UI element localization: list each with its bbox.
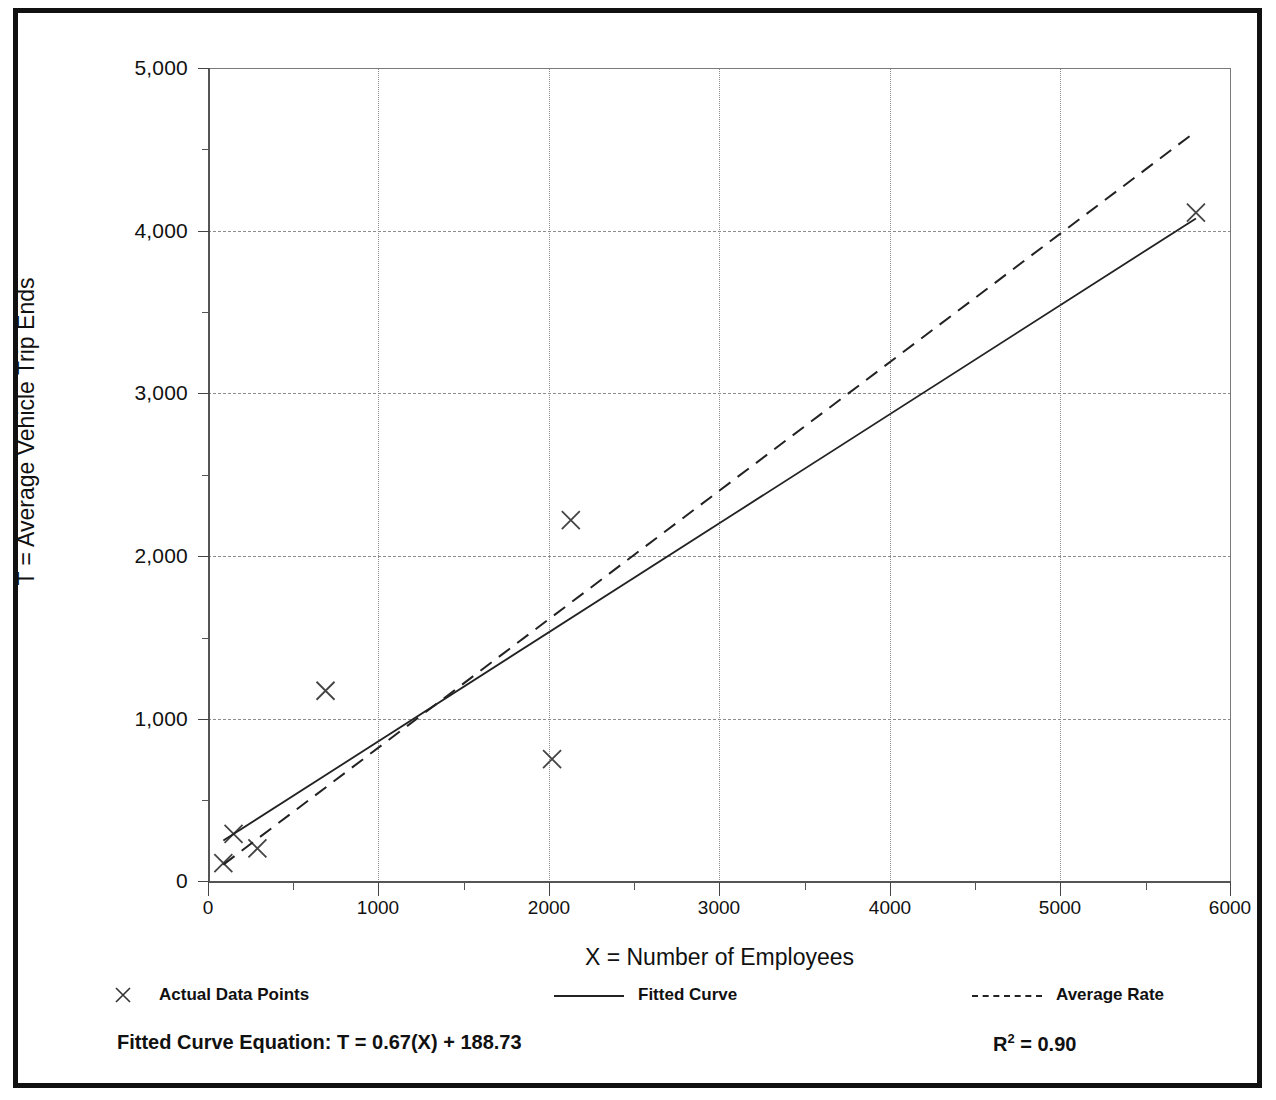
x-tick-label-1000: 1000 (318, 897, 438, 919)
x-tick-label-6000: 6000 (1170, 897, 1276, 919)
plot-top-border (208, 68, 1231, 69)
y-tick-2500 (202, 475, 209, 476)
fitted-curve-equation: Fitted Curve Equation: T = 0.67(X) + 188… (117, 1031, 522, 1054)
data-point-marker-3 (317, 682, 335, 700)
x-tick-4000 (890, 882, 891, 896)
y-tick-label-5000: 5,000 (18, 56, 188, 80)
y-tick-4000 (198, 231, 209, 232)
data-point-marker-2 (248, 839, 266, 857)
x-tick-label-0: 0 (148, 897, 268, 919)
data-point-marker-1 (225, 825, 243, 843)
y-tick-1000 (198, 719, 209, 720)
x-tick-1000 (378, 882, 379, 896)
y-tick-label-4000: 4,000 (18, 219, 188, 243)
legend-item-average-rate: Average Rate (968, 980, 1164, 1010)
y-tick-1500 (202, 638, 209, 639)
legend-item-actual-data-points: Actual Data Points (105, 980, 309, 1010)
series-line-average-rate (223, 131, 1196, 864)
x-tick-2000 (549, 882, 550, 896)
chart-legend: Actual Data Points Fitted Curve Average … (93, 980, 1233, 1014)
y-tick-label-0: 0 (18, 869, 188, 893)
x-tick-5000 (1060, 882, 1061, 896)
y-tick-label-1000: 1,000 (18, 707, 188, 731)
x-tick-5500 (1146, 882, 1147, 890)
gridline-x-1000 (378, 68, 379, 882)
y-tick-3500 (202, 312, 209, 313)
chart-frame: 5,000 4,000 3,000 2,000 1,000 0 0 1000 2… (13, 8, 1262, 1088)
solid-line-icon (550, 984, 628, 1006)
y-tick-3000 (198, 393, 209, 394)
y-tick-4500 (202, 149, 209, 150)
x-tick-3000 (719, 882, 720, 896)
x-tick-label-2000: 2000 (489, 897, 609, 919)
chart-page: 5,000 4,000 3,000 2,000 1,000 0 0 1000 2… (0, 0, 1276, 1100)
data-point-marker-6 (1187, 204, 1205, 222)
dashed-line-icon (968, 984, 1046, 1006)
y-tick-5000 (198, 68, 209, 69)
series-line-fitted-curve (223, 218, 1196, 840)
r-squared-prefix: R (993, 1033, 1007, 1055)
x-tick-6000 (1230, 882, 1231, 896)
r-squared-exponent: 2 (1007, 1031, 1014, 1046)
legend-label-average-rate: Average Rate (1056, 985, 1164, 1005)
data-point-marker-4 (543, 750, 561, 768)
legend-item-fitted-curve: Fitted Curve (550, 980, 737, 1010)
legend-label-actual-data-points: Actual Data Points (159, 985, 309, 1005)
gridline-x-4000 (890, 68, 891, 882)
x-tick-label-4000: 4000 (830, 897, 950, 919)
y-axis-title: T = Average Vehicle Trip Ends (13, 112, 40, 752)
r-squared-value: R2 = 0.90 (993, 1031, 1076, 1056)
data-point-marker-5 (562, 511, 580, 529)
y-tick-2000 (198, 556, 209, 557)
r-squared-number: = 0.90 (1015, 1033, 1077, 1055)
x-tick-2500 (634, 882, 635, 890)
y-tick-500 (202, 800, 209, 801)
x-tick-3500 (805, 882, 806, 890)
x-tick-0 (208, 882, 209, 896)
x-axis-title: X = Number of Employees (208, 944, 1231, 971)
legend-label-fitted-curve: Fitted Curve (638, 985, 737, 1005)
y-tick-label-3000: 3,000 (18, 381, 188, 405)
x-tick-1500 (464, 882, 465, 890)
x-tick-label-3000: 3000 (659, 897, 779, 919)
data-point-marker-0 (214, 854, 232, 872)
x-tick-4500 (975, 882, 976, 890)
y-tick-label-2000: 2,000 (18, 544, 188, 568)
x-marker-icon (105, 984, 149, 1006)
gridline-x-3000 (719, 68, 720, 882)
x-tick-500 (293, 882, 294, 890)
x-tick-label-5000: 5000 (1000, 897, 1120, 919)
plot-right-border (1230, 68, 1231, 883)
gridline-x-2000 (549, 68, 550, 882)
gridline-x-5000 (1060, 68, 1061, 882)
chart-footer: Fitted Curve Equation: T = 0.67(X) + 188… (93, 1031, 1233, 1063)
